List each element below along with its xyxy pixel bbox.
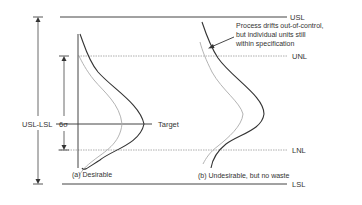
unl-label: UNL [292, 52, 307, 61]
six-sigma-arrow [59, 56, 69, 150]
annotation-pointer [208, 37, 234, 49]
panel-a-caption: (a) Desirable [72, 171, 112, 179]
usl-label: USL [290, 13, 305, 22]
lsl-label: LSL [292, 180, 305, 189]
spec-range-arrow [33, 17, 43, 184]
panel-b-caption: (b) Undesirable, but no waste [198, 172, 290, 180]
annotation-line-3: within specification [235, 40, 294, 48]
panel-a-curve-dark [80, 34, 144, 169]
spec-range-label: USL-LSL [22, 120, 52, 129]
panel-b-curve-light [200, 42, 243, 164]
lnl-label: LNL [292, 146, 306, 155]
six-sigma-label: 6σ [59, 120, 68, 129]
target-label: Target [158, 120, 180, 129]
annotation-line-2: but individual units still [236, 31, 306, 38]
annotation-line-1: Process drifts out-of-control, [236, 22, 324, 29]
spec-limits-diagram: USL UNL Target LNL LSL USL-LSL 6σ (a) De… [0, 0, 362, 205]
